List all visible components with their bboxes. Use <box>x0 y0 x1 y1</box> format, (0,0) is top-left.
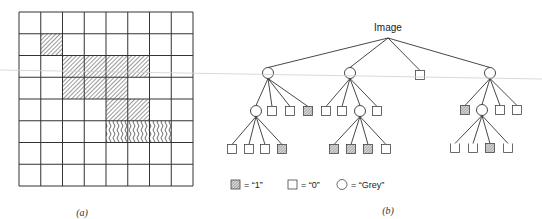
grey-node <box>263 68 274 79</box>
tree-edge <box>350 79 360 106</box>
grey-node <box>485 68 496 79</box>
filled-cell <box>63 77 85 99</box>
legend-grey-text: = “Grey” <box>351 180 384 190</box>
quadtree-figure: (a) Image = “1” = “0” = “Grey” (b) <box>0 0 542 219</box>
filled-cell <box>128 121 150 143</box>
one-leaf <box>347 145 356 154</box>
binary-image-grid <box>19 12 193 186</box>
grey-node <box>345 68 356 79</box>
legend-zero-text: = “0” <box>301 180 320 190</box>
zero-leaf <box>268 107 277 116</box>
legend-one-swatch <box>231 180 240 189</box>
tree-edge <box>334 117 360 145</box>
legend-one-text: = “1” <box>244 180 263 190</box>
tree-edge <box>268 79 308 107</box>
grey-node <box>477 105 488 116</box>
filled-cell <box>63 56 85 78</box>
root-label: Image <box>374 22 402 33</box>
filled-cell <box>128 99 150 121</box>
one-leaf <box>330 145 339 154</box>
zero-leaf <box>373 107 382 116</box>
filled-cell <box>128 56 150 78</box>
tree-edge <box>256 117 282 145</box>
one-leaf <box>364 145 373 154</box>
legend-zero-swatch <box>288 180 297 189</box>
zero-leaf <box>286 107 295 116</box>
tree-edge <box>388 38 490 68</box>
zero-leaf <box>496 106 505 115</box>
tree-edge <box>268 38 388 68</box>
tree-edge <box>490 79 517 106</box>
tree-edge <box>350 79 377 107</box>
zero-leaf <box>228 145 237 154</box>
zero-leaf <box>451 144 460 153</box>
quadtree-nodes <box>228 68 522 154</box>
legend-grey-swatch <box>337 180 347 190</box>
zero-leaf <box>338 107 347 116</box>
one-leaf <box>486 144 495 153</box>
grey-node <box>251 106 262 117</box>
zero-leaf <box>245 145 254 154</box>
zero-leaf <box>322 107 331 116</box>
caption-b: (b) <box>382 205 394 217</box>
filled-cell <box>106 99 128 121</box>
filled-cell <box>84 77 106 99</box>
quadtree-edges <box>232 38 517 145</box>
filled-cell <box>106 56 128 78</box>
one-leaf <box>304 107 313 116</box>
zero-leaf <box>416 71 425 80</box>
legend: = “1” = “0” = “Grey” <box>231 180 384 191</box>
zero-leaf <box>382 145 391 154</box>
filled-cell <box>84 56 106 78</box>
filled-cell <box>150 121 172 143</box>
filled-cell <box>41 34 63 56</box>
one-leaf <box>461 106 470 115</box>
filled-cell <box>106 77 128 99</box>
grey-node <box>355 106 366 117</box>
tree-edge <box>256 79 268 106</box>
zero-leaf <box>469 144 478 153</box>
filled-cell <box>106 121 128 143</box>
caption-a: (a) <box>76 207 88 219</box>
zero-leaf <box>513 106 522 115</box>
zero-leaf <box>504 144 513 153</box>
tree-edge <box>490 79 500 106</box>
one-leaf <box>278 145 287 154</box>
zero-leaf <box>261 145 270 154</box>
